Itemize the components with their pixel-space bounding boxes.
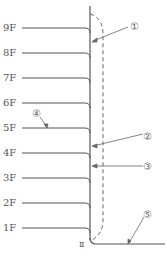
floor-label-9f: 9F xyxy=(3,22,16,33)
floor-label-5f: 5F xyxy=(3,122,16,133)
callout-1: ① xyxy=(130,21,139,32)
floor-label-2f: 2F xyxy=(3,197,16,208)
floor-branches xyxy=(22,28,90,233)
floor-label-8f: 8F xyxy=(3,47,16,58)
dashed-riser-outline xyxy=(90,14,103,240)
ground-marker: Ⅱ xyxy=(79,240,84,249)
callout-2: ② xyxy=(143,131,152,142)
callout-4: ④ xyxy=(32,108,41,119)
floor-label-3f: 3F xyxy=(3,172,16,183)
callout-leaders xyxy=(40,27,144,244)
floor-label-4f: 4F xyxy=(3,147,16,158)
building-diagram: 9F 8F 7F 6F 5F 4F 3F 2F 1F Ⅱ ① ② ③ ④ ⑤ xyxy=(0,0,167,256)
callout-3: ③ xyxy=(143,161,152,172)
callout-5: ⑤ xyxy=(143,209,152,220)
floor-label-1f: 1F xyxy=(3,222,16,233)
floor-label-7f: 7F xyxy=(3,72,16,83)
floor-label-6f: 6F xyxy=(3,97,16,108)
ground-horizontal-line xyxy=(90,238,165,244)
